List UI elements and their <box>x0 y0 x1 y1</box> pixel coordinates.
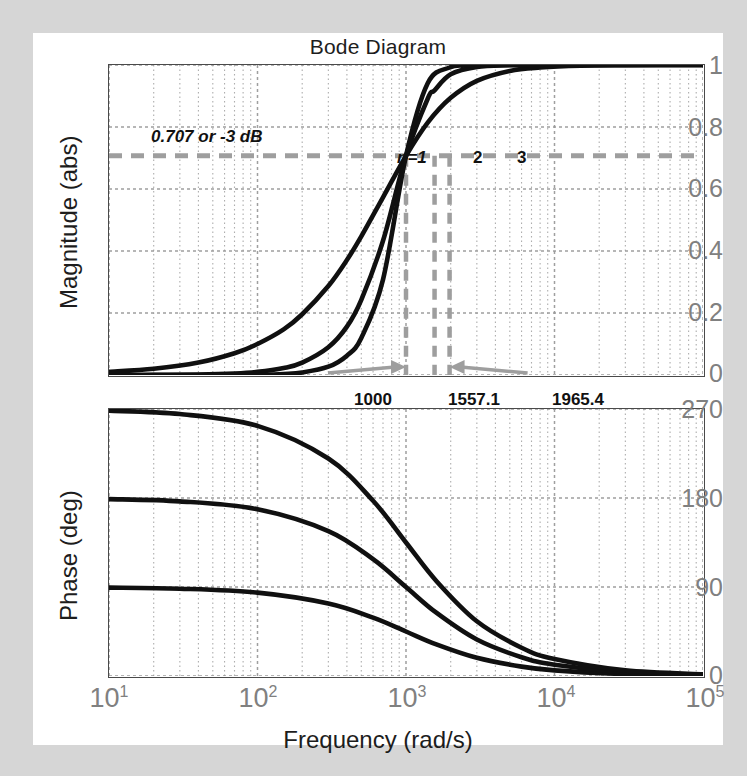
freq-callout-1965: 1965.4 <box>552 390 604 410</box>
freq-callout-1557: 1557.1 <box>448 390 500 410</box>
frequency-axis-label: Frequency (rad/s) <box>33 726 723 754</box>
magnitude-axis-label: Magnitude (abs) <box>55 136 83 309</box>
mag-ytick-0.4: 0.4 <box>661 238 723 263</box>
mag-ytick-0.8: 0.8 <box>661 115 723 140</box>
xtick-1e2: 102 <box>239 683 278 714</box>
phase-ytick-270: 270 <box>661 397 723 422</box>
bode-diagram-figure: Bode Diagram 1 0.8 0.6 0.4 0.2 0 Magnitu… <box>33 33 723 745</box>
curve-label-n3: 3 <box>517 148 526 168</box>
curve-label-n1: n=1 <box>397 148 427 168</box>
freq-callout-1000: 1000 <box>354 390 392 410</box>
xtick-1e5: 105 <box>686 683 725 714</box>
phase-ytick-180: 180 <box>661 486 723 511</box>
xtick-1e4: 104 <box>537 683 576 714</box>
mag-ytick-0.2: 0.2 <box>661 300 723 325</box>
mag-ytick-0.6: 0.6 <box>661 176 723 201</box>
phase-plot <box>108 408 705 678</box>
mag-ytick-0: 0 <box>661 361 723 386</box>
xtick-1e3: 103 <box>388 683 427 714</box>
curve-label-n2: 2 <box>473 148 482 168</box>
page-title: Bode Diagram <box>33 35 723 59</box>
phase-ytick-90: 90 <box>661 575 723 600</box>
magnitude-plot <box>108 64 705 377</box>
phase-axis-label: Phase (deg) <box>55 490 83 621</box>
cutoff-annotation: 0.707 or -3 dB <box>151 127 263 147</box>
mag-ytick-1: 1 <box>661 53 723 78</box>
xtick-1e1: 101 <box>90 683 129 714</box>
phase-svg <box>109 409 703 676</box>
magnitude-svg <box>109 65 703 375</box>
frequency-callout-arrows <box>328 360 528 374</box>
